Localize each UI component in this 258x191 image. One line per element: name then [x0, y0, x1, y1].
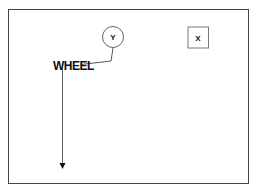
wheel-label: WHEEL [53, 59, 94, 73]
node-x[interactable]: X [188, 27, 209, 48]
arrowhead-down-icon [60, 163, 66, 169]
diagram-canvas: Y X [0, 0, 258, 191]
node-y-label: Y [110, 33, 116, 42]
node-x-label: X [195, 34, 201, 43]
node-y[interactable]: Y [103, 27, 124, 48]
